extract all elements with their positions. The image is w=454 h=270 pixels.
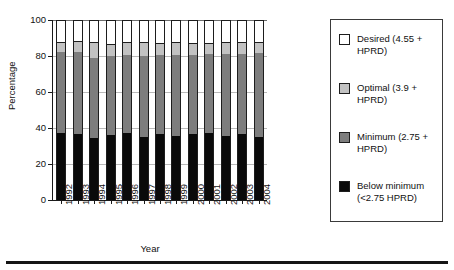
bar-segment-optimal-2002 xyxy=(221,43,231,54)
x-tick-1995 xyxy=(111,200,112,204)
x-tick-2004 xyxy=(259,200,260,204)
bar-segment-desired-2000 xyxy=(188,20,198,44)
x-tick-label-1997: 1997 xyxy=(147,184,157,205)
y-tick-label-20: 20 xyxy=(35,159,46,169)
bar-segment-optimal-1993 xyxy=(73,42,83,53)
bar-segment-desired-2003 xyxy=(237,20,247,43)
bar-segment-minimum-1995 xyxy=(106,56,116,135)
x-tick-1998 xyxy=(160,200,161,204)
bar-segment-desired-1993 xyxy=(73,20,83,42)
y-tick-0 xyxy=(48,200,53,201)
bar-segment-desired-1994 xyxy=(89,20,99,43)
x-tick-label-1999: 1999 xyxy=(179,184,189,205)
bar-segment-minimum-2002 xyxy=(221,54,231,136)
bar-segment-optimal-2004 xyxy=(254,43,264,54)
x-tick-label-2004: 2004 xyxy=(262,184,272,205)
y-tick-80 xyxy=(48,56,53,57)
legend-swatch-below-minimum-icon xyxy=(339,181,350,192)
x-tick-1996 xyxy=(127,200,128,204)
legend-item-desired[interactable]: Desired (4.55 + HPRD) xyxy=(339,33,441,56)
bar-segment-desired-2001 xyxy=(204,20,214,44)
bar-segment-minimum-1997 xyxy=(139,56,149,137)
bar-segment-desired-1996 xyxy=(122,20,132,43)
bar-segment-optimal-1994 xyxy=(89,43,99,57)
bar-segment-desired-2002 xyxy=(221,20,231,43)
bar-segment-desired-1999 xyxy=(171,20,181,43)
bar-2001[interactable] xyxy=(204,20,214,200)
bar-segment-desired-1997 xyxy=(139,20,149,43)
bar-segment-minimum-1994 xyxy=(89,58,99,138)
legend-item-minimum[interactable]: Minimum (2.75 + HPRD) xyxy=(339,131,441,154)
bar-segment-optimal-1996 xyxy=(122,43,132,55)
legend-swatch-desired-icon xyxy=(339,34,350,45)
bar-1998[interactable] xyxy=(155,20,165,200)
x-tick-label-2001: 2001 xyxy=(212,184,222,205)
x-tick-label-1998: 1998 xyxy=(163,184,173,205)
bar-segment-desired-2004 xyxy=(254,20,264,43)
plot-area: 020406080100 xyxy=(52,20,267,201)
y-axis-title: Percentage xyxy=(6,61,17,110)
legend-item-optimal[interactable]: Optimal (3.9 + HPRD) xyxy=(339,82,441,105)
y-tick-label-40: 40 xyxy=(35,123,46,133)
bar-1992[interactable] xyxy=(56,20,66,200)
bar-segment-desired-1998 xyxy=(155,20,165,44)
bar-segment-optimal-1998 xyxy=(155,44,165,55)
legend-label-minimum: Minimum (2.75 + HPRD) xyxy=(357,131,441,154)
bar-segment-desired-1992 xyxy=(56,20,66,43)
x-tick-label-1994: 1994 xyxy=(97,184,107,205)
bar-segment-minimum-1996 xyxy=(122,55,132,133)
bar-segment-minimum-2000 xyxy=(188,55,198,134)
bar-segment-minimum-1999 xyxy=(171,55,181,136)
bar-segment-optimal-1997 xyxy=(139,43,149,56)
bar-segment-optimal-2001 xyxy=(204,44,214,54)
x-tick-1994 xyxy=(94,200,95,204)
bar-segment-minimum-2003 xyxy=(237,54,247,134)
chart-legend: Desired (4.55 + HPRD)Optimal (3.9 + HPRD… xyxy=(330,19,443,222)
bar-segment-minimum-1998 xyxy=(155,55,165,134)
legend-label-optimal: Optimal (3.9 + HPRD) xyxy=(357,82,441,105)
legend-label-desired: Desired (4.55 + HPRD) xyxy=(357,33,441,56)
bar-1995[interactable] xyxy=(106,20,116,200)
bar-2003[interactable] xyxy=(237,20,247,200)
bar-1994[interactable] xyxy=(89,20,99,200)
bar-segment-optimal-1992 xyxy=(56,43,66,53)
y-tick-label-100: 100 xyxy=(30,15,46,25)
x-tick-label-1995: 1995 xyxy=(114,184,124,205)
x-tick-2000 xyxy=(193,200,194,204)
x-tick-1997 xyxy=(144,200,145,204)
bar-segment-optimal-1999 xyxy=(171,43,181,55)
y-tick-label-80: 80 xyxy=(35,51,46,61)
x-tick-label-1992: 1992 xyxy=(64,184,74,205)
bar-segment-minimum-2001 xyxy=(204,54,214,132)
bar-2004[interactable] xyxy=(254,20,264,200)
y-tick-label-60: 60 xyxy=(35,87,46,97)
x-tick-label-1993: 1993 xyxy=(81,184,91,205)
x-tick-label-2002: 2002 xyxy=(229,184,239,205)
bar-2000[interactable] xyxy=(188,20,198,200)
bar-segment-optimal-1995 xyxy=(106,45,116,56)
x-tick-label-1996: 1996 xyxy=(130,184,140,205)
figure-stacked-bar-chart: Percentage 020406080100 1992199319941995… xyxy=(0,0,454,270)
bar-segment-minimum-1992 xyxy=(56,52,66,132)
bar-1999[interactable] xyxy=(171,20,181,200)
legend-swatch-optimal-icon xyxy=(339,83,350,94)
bar-segment-minimum-1993 xyxy=(73,52,83,134)
bottom-horizontal-rule xyxy=(6,261,448,264)
bar-1996[interactable] xyxy=(122,20,132,200)
legend-swatch-minimum-icon xyxy=(339,132,350,143)
legend-item-below-minimum[interactable]: Below minimum (<2.75 HPRD) xyxy=(339,180,441,203)
x-tick-2002 xyxy=(226,200,227,204)
x-tick-label-2003: 2003 xyxy=(245,184,255,205)
y-tick-100 xyxy=(48,20,53,21)
x-tick-label-2000: 2000 xyxy=(196,184,206,205)
y-tick-label-0: 0 xyxy=(41,195,46,205)
y-tick-60 xyxy=(48,92,53,93)
bar-2002[interactable] xyxy=(221,20,231,200)
x-axis-title: Year xyxy=(0,243,300,254)
x-tick-1993 xyxy=(78,200,79,204)
bar-segment-desired-1995 xyxy=(106,20,116,45)
bar-segment-minimum-2004 xyxy=(254,53,264,137)
bar-segment-optimal-2003 xyxy=(237,43,247,55)
bar-1993[interactable] xyxy=(73,20,83,200)
bar-1997[interactable] xyxy=(139,20,149,200)
